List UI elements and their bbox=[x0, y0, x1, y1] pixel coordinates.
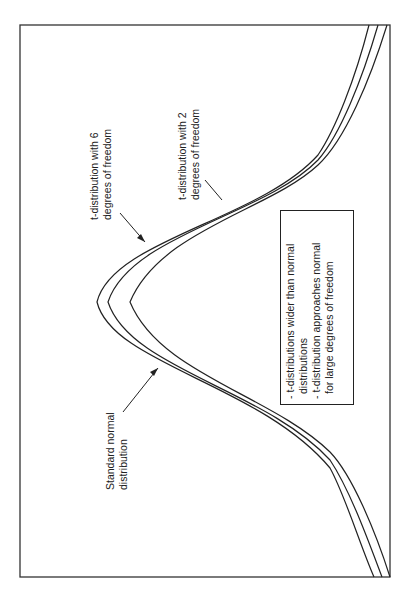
note-line-3: - t-distribution approaches normal bbox=[310, 216, 323, 399]
label-t6: t-distribution with 6 degrees of freedom bbox=[88, 129, 114, 220]
label-t6-line1: t-distribution with 6 bbox=[88, 129, 101, 220]
note-line-4: for large degrees of freedom bbox=[323, 216, 336, 399]
label-normal-line2: distribution bbox=[117, 412, 130, 490]
label-normal-line1: Standard normal bbox=[104, 412, 117, 490]
label-t2: t-distribution with 2 degrees of freedom bbox=[176, 109, 202, 200]
label-normal: Standard normal distribution bbox=[104, 412, 130, 490]
note-line-2: distributions bbox=[297, 216, 310, 399]
figure-canvas bbox=[0, 0, 417, 595]
label-t2-line2: degrees of freedom bbox=[189, 109, 202, 200]
note-line-1: - t-distributions wider than normal bbox=[284, 216, 297, 399]
arrow-t2 bbox=[205, 180, 222, 200]
label-t6-line2: degrees of freedom bbox=[101, 129, 114, 220]
note-box: - t-distributions wider than normal dist… bbox=[280, 210, 354, 405]
label-t2-line1: t-distribution with 2 bbox=[176, 109, 189, 200]
